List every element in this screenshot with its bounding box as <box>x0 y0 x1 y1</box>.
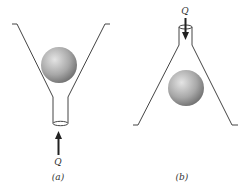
caption-a: (a) <box>52 172 65 182</box>
funnel-diagram: Q (a) Q (b) <box>0 0 248 185</box>
panel-b: Q (b) <box>133 6 238 182</box>
flow-arrow-up-icon <box>55 131 62 155</box>
flow-label-a: Q <box>54 157 62 167</box>
ball-a <box>41 47 77 83</box>
ball-b <box>168 70 204 106</box>
caption-b: (b) <box>176 172 189 182</box>
panel-a: Q (a) <box>12 24 110 182</box>
flow-label-b: Q <box>181 6 189 16</box>
